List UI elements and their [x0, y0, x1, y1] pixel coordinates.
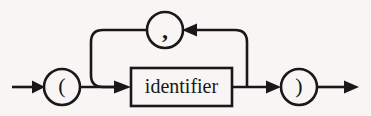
nonterminal-label-identifier: identifier [145, 75, 219, 97]
close-paren-arrowhead-icon [266, 81, 281, 94]
terminal-label-open-paren: ( [58, 73, 65, 98]
terminal-label-comma: , [162, 17, 168, 43]
railroad-diagram: ( identifier , ) [0, 0, 371, 116]
exit-arrowhead-icon [344, 81, 359, 94]
terminal-label-close-paren: ) [295, 73, 302, 98]
syntax-diagram-canvas: ( identifier , ) [0, 0, 371, 116]
